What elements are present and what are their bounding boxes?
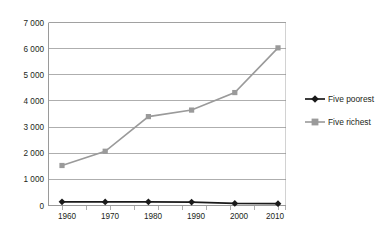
y-tick-label: 4 000 bbox=[24, 97, 45, 106]
data-point-marker bbox=[59, 163, 64, 168]
y-tick-label: 2 000 bbox=[24, 149, 45, 158]
x-tick-label: 1970 bbox=[101, 212, 120, 221]
y-tick-label: 0 bbox=[39, 202, 44, 211]
x-tick-label: 1990 bbox=[187, 212, 206, 221]
y-tick-label: 7 000 bbox=[24, 19, 45, 28]
y-tick-label: 3 000 bbox=[24, 123, 45, 132]
data-point-marker bbox=[103, 149, 108, 154]
x-tick-label: 2010 bbox=[266, 212, 285, 221]
chart-canvas: 7 000 6 000 5 000 4 000 3 000 2 000 1 00… bbox=[0, 0, 387, 239]
x-tick-label: 1960 bbox=[58, 212, 77, 221]
x-tick-label: 2000 bbox=[230, 212, 249, 221]
data-point-marker bbox=[189, 107, 194, 112]
line-chart: 7 000 6 000 5 000 4 000 3 000 2 000 1 00… bbox=[0, 0, 387, 239]
y-tick-label: 5 000 bbox=[24, 71, 45, 80]
data-point-marker bbox=[275, 45, 280, 50]
square-marker-icon bbox=[312, 119, 319, 126]
data-point-marker bbox=[146, 114, 151, 119]
legend-label-five-poorest: Five poorest bbox=[328, 94, 375, 104]
y-tick-label: 6 000 bbox=[24, 45, 45, 54]
x-tick-label: 1980 bbox=[144, 212, 163, 221]
data-point-marker bbox=[232, 90, 237, 95]
y-tick-label: 1 000 bbox=[24, 175, 45, 184]
legend-label-five-richest: Five richest bbox=[328, 117, 371, 127]
